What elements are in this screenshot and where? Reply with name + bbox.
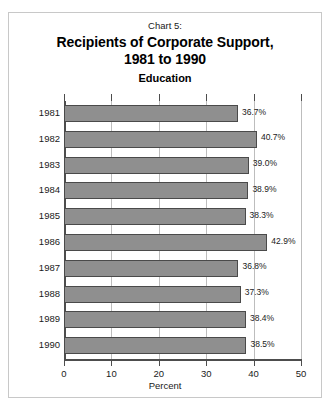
y-axis-tick-label: 1987 [12, 262, 60, 274]
x-axis-tick-label: 50 [286, 368, 316, 380]
x-axis-tick-label: 10 [96, 368, 126, 380]
y-axis-tick-label: 1988 [12, 288, 60, 300]
y-axis-tick-label: 1983 [12, 159, 60, 171]
bar-value-label: 38.9% [252, 184, 276, 195]
y-axis-tick-label: 1985 [12, 210, 60, 222]
x-axis-tick-bottom [206, 360, 207, 366]
chart-title-line-1: Recipients of Corporate Support, [9, 34, 321, 51]
bar-value-label: 37.3% [245, 287, 269, 298]
x-axis-tick-top [254, 94, 255, 101]
y-axis-tick-label: 1986 [12, 236, 60, 248]
gridline [301, 101, 302, 359]
page-title: Recipients of Corporate Support, 1981 to… [9, 34, 321, 68]
x-axis-tick-bottom [254, 360, 255, 366]
x-axis-tick-bottom [64, 360, 65, 366]
bar-value-label: 38.5% [250, 339, 274, 350]
x-axis-tick-top [159, 94, 160, 101]
chart-number-label: Chart 5: [9, 19, 321, 33]
bar-value-label: 36.7% [242, 107, 266, 118]
y-axis-tick-label: 1984 [12, 184, 60, 196]
x-axis-tick-top [64, 94, 65, 101]
y-axis-tick-label: 1989 [12, 313, 60, 325]
chart-subtitle: Education [9, 71, 321, 86]
bar [64, 182, 248, 199]
bar [64, 234, 267, 251]
bar [64, 131, 257, 148]
bar-row: 36.8% [64, 256, 301, 282]
bar [64, 286, 241, 303]
bar-value-label: 36.8% [242, 261, 266, 272]
chart-title-block: Chart 5: Recipients of Corporate Support… [9, 19, 321, 86]
bar-row: 36.7% [64, 101, 301, 127]
x-axis-tick-top [111, 94, 112, 101]
bar [64, 337, 246, 354]
bar [64, 311, 246, 328]
x-axis-tick-label: 30 [191, 368, 221, 380]
plot-area: 36.7%40.7%39.0%38.9%38.3%42.9%36.8%37.3%… [64, 101, 301, 359]
x-axis-tick-top [206, 94, 207, 101]
bar-row: 38.5% [64, 333, 301, 359]
x-axis-tick-label: 0 [49, 368, 79, 380]
x-axis-tick-label: 40 [239, 368, 269, 380]
x-axis-tick-bottom [301, 360, 302, 366]
bar-value-label: 38.3% [250, 210, 274, 221]
bar [64, 105, 238, 122]
x-axis-tick-top [301, 94, 302, 101]
x-axis-line [64, 359, 302, 361]
x-axis-tick-bottom [111, 360, 112, 366]
chart-figure: Chart 5: Recipients of Corporate Support… [8, 12, 322, 398]
y-axis-tick-label: 1990 [12, 339, 60, 351]
bar-row: 38.3% [64, 204, 301, 230]
bar-value-label: 40.7% [261, 132, 285, 143]
x-axis-label: Percent [9, 380, 321, 392]
y-axis-tick-label: 1982 [12, 133, 60, 145]
bar-value-label: 38.4% [250, 313, 274, 324]
chart-title-line-2: 1981 to 1990 [9, 51, 321, 68]
x-axis-tick-bottom [159, 360, 160, 366]
bar [64, 157, 249, 174]
y-axis-tick-label: 1981 [12, 107, 60, 119]
bar-value-label: 42.9% [271, 236, 295, 247]
bar-row: 40.7% [64, 127, 301, 153]
bar [64, 208, 246, 225]
x-axis-tick-label: 20 [144, 368, 174, 380]
bar-row: 37.3% [64, 282, 301, 308]
bar-row: 38.9% [64, 178, 301, 204]
bar-value-label: 39.0% [253, 158, 277, 169]
bar-row: 38.4% [64, 307, 301, 333]
bar [64, 260, 238, 277]
bar-row: 42.9% [64, 230, 301, 256]
bar-row: 39.0% [64, 153, 301, 179]
